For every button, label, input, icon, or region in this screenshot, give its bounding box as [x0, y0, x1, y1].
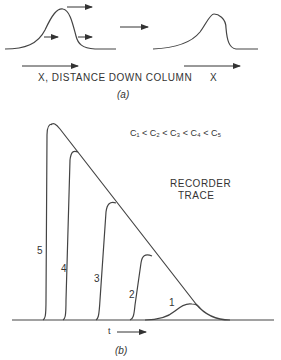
peak-5-front: [43, 124, 52, 320]
peak-4-front: [63, 151, 78, 320]
peak-3-front: [96, 202, 116, 320]
diagram-canvas: [0, 0, 281, 360]
caption-b: (b): [115, 345, 127, 356]
caption-a: (a): [117, 89, 129, 100]
time-label: t: [108, 326, 111, 336]
peak-label-5: 5: [37, 245, 43, 256]
peak-2-front: [130, 255, 152, 320]
recorder-trace-label-2: TRACE: [178, 190, 214, 201]
peak-label-1: 1: [169, 297, 175, 308]
concentration-inequality: C₁ < C₂ < C₃ < C₄ < C₅: [130, 128, 221, 138]
peak-label-4: 4: [61, 263, 67, 274]
peak-label-3: 3: [94, 273, 100, 284]
recorder-trace: [12, 124, 274, 320]
recorder-trace-label-1: RECORDER: [170, 178, 231, 189]
axis-label-distance: X, DISTANCE DOWN COLUMN: [38, 72, 192, 83]
symmetric-band-profile: [5, 7, 116, 49]
axis-label-x: X: [210, 72, 217, 83]
envelope-curve: [51, 124, 230, 320]
peak-label-2: 2: [129, 289, 135, 300]
self-sharpened-band-profile: [153, 14, 258, 49]
